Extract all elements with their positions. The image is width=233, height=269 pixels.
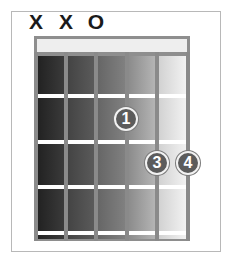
fret-line-3 [38, 185, 186, 189]
string-3 [125, 52, 129, 241]
fret-line-2 [38, 140, 186, 144]
fretboard-column-2 [68, 56, 94, 239]
string-5 [64, 52, 68, 241]
fret-line-4 [38, 231, 186, 235]
muted-string-5-marker: X [56, 11, 76, 33]
muted-string-6-marker: X [26, 11, 46, 33]
string-1 [186, 52, 190, 241]
fretboard-column-5 [159, 56, 186, 239]
open-string-4-marker: O [86, 11, 106, 33]
string-6 [34, 52, 38, 241]
finger-4-dot: 4 [176, 151, 200, 175]
fretboard-column-1 [38, 56, 64, 239]
fret-line-1 [38, 94, 186, 98]
fretboard-column-3 [98, 56, 125, 239]
finger-1-dot: 1 [114, 107, 138, 131]
nut [37, 39, 187, 52]
string-2 [155, 52, 159, 241]
finger-3-dot: 3 [145, 151, 169, 175]
string-4 [94, 52, 98, 241]
fretboard-column-4 [129, 56, 155, 239]
